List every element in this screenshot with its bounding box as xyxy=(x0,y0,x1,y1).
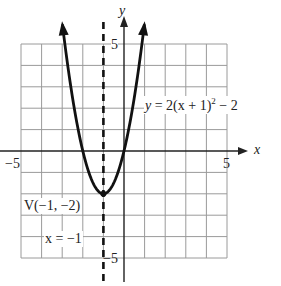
x-tick-neg5: −5 xyxy=(5,157,20,171)
y-tick-5: 5 xyxy=(111,38,118,52)
x-tick-5: 5 xyxy=(223,157,230,171)
y-axis-label: y xyxy=(119,4,125,18)
equation-label: y = 2(x + 1)2 − 2 xyxy=(144,96,239,114)
x-axis-label: x xyxy=(254,143,260,157)
equation-tail: − 2 xyxy=(216,98,238,113)
y-tick-neg5: −5 xyxy=(103,252,118,266)
symmetry-label: x = −1 xyxy=(44,231,83,247)
vertex-point xyxy=(100,191,106,197)
graph-canvas xyxy=(0,0,281,286)
vertex-label: V(−1, −2) xyxy=(23,198,81,214)
equation-body: = 2(x + 1) xyxy=(151,98,211,113)
